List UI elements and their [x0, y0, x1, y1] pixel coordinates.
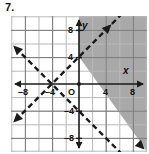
y-tick-label-neg4: –4 [64, 107, 74, 116]
graph-figure: 7. [0, 0, 149, 154]
y-tick-label-pos8: 8 [68, 26, 73, 35]
coordinate-plane: x y O –8 –4 4 8 8 4 –4 –8 [11, 16, 147, 152]
intersection-point [77, 82, 81, 86]
origin-label: O [68, 88, 75, 97]
y-tick-label-neg8: –8 [64, 134, 74, 143]
y-tick-label-pos4: 4 [68, 53, 73, 62]
x-tick-label-neg8: –8 [18, 88, 28, 97]
problem-number: 7. [5, 1, 15, 13]
x-axis-label: x [123, 66, 129, 75]
x-tick-label-pos8: 8 [130, 88, 135, 97]
y-axis-label: y [82, 21, 88, 30]
x-tick-label-neg4: –4 [45, 88, 55, 97]
coordinate-plane-svg [11, 16, 147, 152]
x-tick-label-pos4: 4 [103, 88, 108, 97]
